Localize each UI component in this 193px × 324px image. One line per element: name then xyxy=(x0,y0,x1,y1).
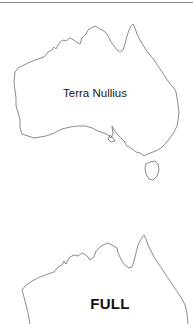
map-label-full: FULL xyxy=(80,295,140,312)
map-label-terra-nullius: Terra Nullius xyxy=(50,87,140,99)
